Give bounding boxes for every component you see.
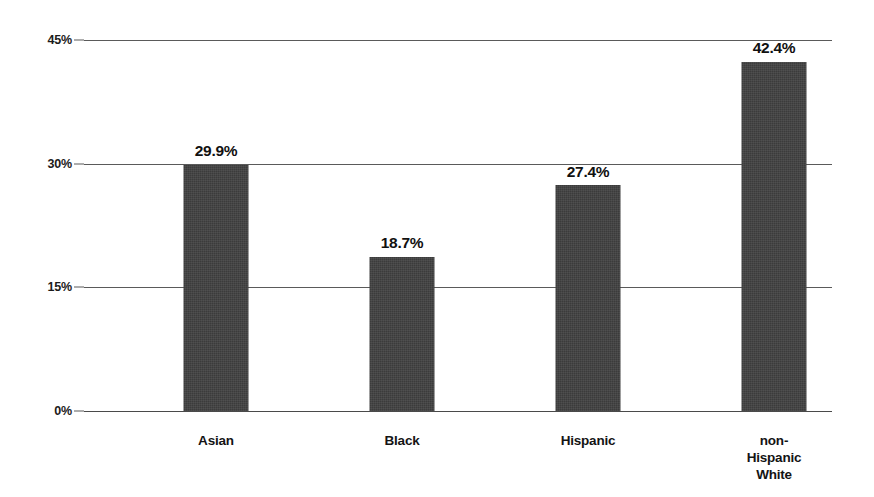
y-tick-label-30: 30% — [48, 157, 72, 171]
plot-area: 29.9% 18.7% 27.4% 42.4% — [84, 40, 832, 411]
bar-asian[interactable] — [184, 165, 249, 412]
bar-group-non-hispanic-white: 42.4% — [729, 40, 819, 411]
x-axis: Asian Black Hispanic non-Hispanic White — [84, 432, 832, 494]
axis-baseline — [84, 411, 832, 412]
category-label-hispanic: Hispanic — [561, 432, 616, 449]
bar-value-black: 18.7% — [381, 234, 423, 252]
bar-chart: 45% 30% 15% 0% 29.9% 18.7% 27.4% — [0, 0, 874, 497]
bar-group-asian: 29.9% — [171, 40, 261, 411]
category-label-non-hispanic-white: non-Hispanic White — [745, 432, 803, 483]
y-tick-label-15: 15% — [48, 280, 72, 294]
category-label-black: Black — [384, 432, 419, 449]
bar-value-non-hispanic-white: 42.4% — [753, 39, 795, 57]
bar-non-hispanic-white[interactable] — [742, 62, 807, 412]
y-tick-mark-0 — [74, 411, 84, 412]
bar-black[interactable] — [370, 257, 435, 411]
y-tick-label-45: 45% — [48, 33, 72, 47]
bar-group-black: 18.7% — [357, 40, 447, 411]
category-label-asian: Asian — [198, 432, 234, 449]
y-axis: 45% 30% 15% 0% — [0, 0, 84, 497]
bar-value-hispanic: 27.4% — [567, 163, 609, 181]
y-tick-mark-15 — [74, 287, 84, 288]
y-tick-mark-30 — [74, 163, 84, 164]
y-tick-label-0: 0% — [54, 404, 72, 418]
bar-value-asian: 29.9% — [195, 142, 237, 160]
bar-group-hispanic: 27.4% — [543, 40, 633, 411]
bar-hispanic[interactable] — [556, 185, 621, 411]
y-tick-mark-45 — [74, 40, 84, 41]
